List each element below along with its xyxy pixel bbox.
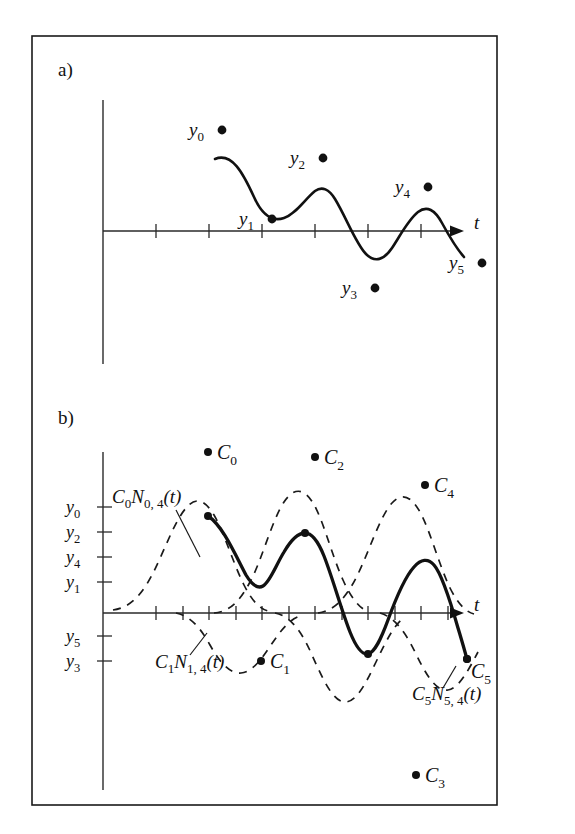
panel-a-point-sub-y4: 4 xyxy=(403,186,410,201)
panel-b-knot-dot-1 xyxy=(301,529,309,537)
panel-b-annotation-c0n04: C0N0, 4(t) xyxy=(112,486,200,557)
panel-a-approximation-curve xyxy=(215,158,464,260)
svg-text:y2: y2 xyxy=(288,147,305,172)
panel-b-label-c5-sub: 5 xyxy=(484,672,491,687)
panel-b-ylabel-y1-sub: 1 xyxy=(74,582,80,596)
ann-c1n14-leader xyxy=(190,633,207,655)
panel-b-bspline-curve xyxy=(208,516,467,659)
panel-a-point-sub-y0: 0 xyxy=(197,129,204,144)
panel-a-data-point-y2: y2 xyxy=(288,147,327,172)
panel-a-dot-y2 xyxy=(319,154,328,163)
panel-a-point-sub-y1: 1 xyxy=(247,218,254,233)
svg-text:C1: C1 xyxy=(270,650,290,677)
panel-b-label-c5-base: C xyxy=(471,660,485,682)
panel-a-point-label-y5: y xyxy=(447,252,458,273)
panel-b: b) t xyxy=(58,407,491,791)
panel-b-label-c2-sub: 2 xyxy=(337,458,344,473)
panel-b-control-point-c0: C0 xyxy=(204,441,237,468)
svg-text:C3: C3 xyxy=(425,764,445,791)
svg-text:y3: y3 xyxy=(340,277,357,302)
ann-c0n04-leader xyxy=(176,510,200,557)
panel-b-ylabel-y4: y4 xyxy=(64,547,81,571)
panel-b-dot-c1 xyxy=(257,657,265,665)
panel-b-ylabel-y3-sub: 3 xyxy=(74,661,80,675)
figure-svg: a) t y0 xyxy=(0,0,575,834)
panel-b-knot-dot-2 xyxy=(364,650,372,658)
ann-c1n14-c: C xyxy=(155,651,168,672)
svg-text:y4: y4 xyxy=(393,176,410,201)
svg-text:C4: C4 xyxy=(434,474,454,501)
panel-b-ylabel-y2: y2 xyxy=(64,522,80,546)
panel-b-label-c1-sub: 1 xyxy=(283,662,290,677)
panel-a-dot-y5 xyxy=(478,259,487,268)
panel-b-ylabel-y0-sub: 0 xyxy=(74,507,80,521)
ann-c1n14-arg: (t) xyxy=(206,651,224,673)
svg-text:C2: C2 xyxy=(324,446,344,473)
panel-a-data-point-y4: y4 xyxy=(393,176,432,201)
panel-b-control-point-c1: C1 xyxy=(257,650,290,677)
panel-b-ylabel-y4-sub: 4 xyxy=(74,557,81,571)
panel-a-point-label-y4: y xyxy=(393,176,404,197)
panel-b-spline-knot-dots xyxy=(204,512,471,663)
panel-a-data-point-y3: y3 xyxy=(340,277,379,302)
panel-a-point-label-y3: y xyxy=(340,277,351,298)
panel-a: a) t y0 xyxy=(58,59,486,364)
ann-c1n14-nsub: 1, 4 xyxy=(187,661,207,676)
svg-text:C0N0, 4(t): C0N0, 4(t) xyxy=(112,486,181,511)
panel-b-knot-dot-0 xyxy=(204,512,212,520)
svg-text:C1N1, 4(t): C1N1, 4(t) xyxy=(155,651,224,676)
ann-c5n54-arg: (t) xyxy=(463,683,481,705)
panel-a-data-point-y0: y0 xyxy=(187,119,226,144)
panel-b-label-c4-base: C xyxy=(434,474,448,496)
panel-b-label-c4-sub: 4 xyxy=(447,486,454,501)
panel-b-y-axis-labels: y0 y2 y4 y1 y5 y3 xyxy=(64,497,81,675)
svg-text:y1: y1 xyxy=(237,208,254,233)
panel-a-x-axis-arrowhead xyxy=(450,226,464,237)
ann-c5n54-c: C xyxy=(412,683,425,704)
panel-a-point-sub-y5: 5 xyxy=(457,262,464,277)
panel-a-dot-y4 xyxy=(424,183,433,192)
panel-b-label: b) xyxy=(58,407,74,429)
ann-c5n54-leader xyxy=(443,666,456,688)
svg-text:C5N5, 4(t): C5N5, 4(t) xyxy=(412,683,481,708)
panel-b-axis-label-t: t xyxy=(474,594,480,615)
panel-b-label-c0-sub: 0 xyxy=(230,453,237,468)
panel-a-dot-y1 xyxy=(268,215,277,224)
panel-a-data-point-y1: y1 xyxy=(237,208,276,233)
panel-b-annotation-c1n14: C1N1, 4(t) xyxy=(155,633,224,676)
panel-b-ylabel-y2-sub: 2 xyxy=(74,532,80,546)
panel-b-dot-c4 xyxy=(421,481,429,489)
panel-b-dot-c2 xyxy=(311,453,319,461)
panel-b-dot-c5 xyxy=(463,655,471,663)
panel-b-ylabel-y3-base: y xyxy=(64,651,74,671)
panel-b-ylabel-y5-sub: 5 xyxy=(74,636,80,650)
panel-b-ylabel-y1: y1 xyxy=(64,572,80,596)
panel-b-label-c3-base: C xyxy=(425,764,439,786)
panel-a-data-point-y5: y5 xyxy=(447,252,486,277)
panel-b-ylabel-y0: y0 xyxy=(64,497,80,521)
panel-b-label-c1-base: C xyxy=(270,650,284,672)
figure-frame xyxy=(32,36,497,805)
panel-a-dot-y3 xyxy=(371,284,380,293)
panel-a-label: a) xyxy=(58,59,73,81)
panel-b-label-c0-base: C xyxy=(217,441,231,463)
panel-b-ylabel-y4-base: y xyxy=(64,547,74,567)
panel-b-control-point-c2: C2 xyxy=(311,446,344,473)
panel-a-axis-label-t: t xyxy=(474,212,480,233)
panel-a-point-label-y2: y xyxy=(288,147,299,168)
panel-b-label-c2-base: C xyxy=(324,446,338,468)
panel-b-ylabel-y0-base: y xyxy=(64,497,74,517)
panel-b-control-point-c3: C3 xyxy=(412,764,445,791)
panel-b-ylabel-y3: y3 xyxy=(64,651,80,675)
panel-b-ylabel-y5: y5 xyxy=(64,626,80,650)
panel-b-dot-c0 xyxy=(204,448,212,456)
svg-text:y0: y0 xyxy=(187,119,204,144)
ann-c0n04-arg: (t) xyxy=(163,486,181,508)
panel-a-dot-y0 xyxy=(218,126,227,135)
panel-b-dot-c3 xyxy=(412,771,420,779)
panel-b-label-c3-sub: 3 xyxy=(438,776,445,791)
ann-c0n04-c: C xyxy=(112,486,125,507)
ann-c0n04-nsub: 0, 4 xyxy=(144,496,164,511)
panel-b-y-ticks xyxy=(97,507,112,661)
panel-a-point-label-y0: y xyxy=(187,119,198,140)
